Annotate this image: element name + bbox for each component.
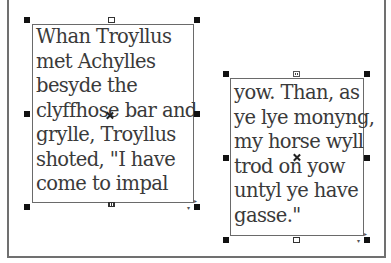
resize-handle-bottom-left-icon[interactable] xyxy=(24,204,30,210)
text-line: my horse wyll xyxy=(234,130,363,155)
text-line: shoted, "I have xyxy=(36,148,193,173)
resize-handle-middle-left-icon[interactable] xyxy=(223,155,229,161)
corner-marker-icon: ▾ xyxy=(187,205,190,211)
text-line: untyl ye have xyxy=(234,179,363,204)
text-line: met Achylles xyxy=(36,50,193,75)
resize-handle-middle-left-icon[interactable] xyxy=(24,111,30,117)
resize-handle-top-right-icon[interactable] xyxy=(364,71,370,77)
text-frame-1-content[interactable]: Whan Troyllusmet Achyllesbesyde theclyff… xyxy=(36,25,193,202)
text-frame-1[interactable]: Whan Troyllusmet Achyllesbesyde theclyff… xyxy=(32,24,194,203)
corner-options-icon[interactable]: ▸ xyxy=(194,198,197,204)
text-line: come to impal xyxy=(36,172,193,197)
resize-handle-top-left-icon[interactable] xyxy=(223,71,229,77)
corner-options-icon[interactable]: ▸ xyxy=(364,231,367,237)
in-port-threaded-icon[interactable] xyxy=(293,71,300,77)
out-port-icon[interactable] xyxy=(293,237,300,243)
text-line: grylle, Troyllus xyxy=(36,123,193,148)
corner-marker-icon: ▾ xyxy=(357,238,360,244)
text-line: ye lye monyng, xyxy=(234,106,363,131)
resize-handle-top-right-icon[interactable] xyxy=(194,17,200,23)
resize-handle-bottom-right-icon[interactable] xyxy=(194,204,200,210)
resize-handle-middle-right-icon[interactable] xyxy=(364,155,370,161)
resize-handle-bottom-left-icon[interactable] xyxy=(223,237,229,243)
text-line: gasse." xyxy=(234,204,363,229)
document-canvas[interactable]: Whan Troyllusmet Achyllesbesyde theclyff… xyxy=(0,0,391,263)
text-line: Whan Troyllus xyxy=(36,25,193,50)
text-line: clyffhose bar and xyxy=(36,99,193,124)
in-port-icon[interactable] xyxy=(108,17,115,23)
center-point-icon xyxy=(106,112,113,119)
text-line: yow. Than, as xyxy=(234,81,363,106)
out-port-overflow-icon[interactable] xyxy=(108,202,115,207)
resize-handle-top-left-icon[interactable] xyxy=(24,17,30,23)
resize-handle-bottom-right-icon[interactable] xyxy=(364,237,370,243)
text-line: besyde the xyxy=(36,74,193,99)
center-point-icon xyxy=(293,154,300,161)
resize-handle-middle-right-icon[interactable] xyxy=(194,111,200,117)
